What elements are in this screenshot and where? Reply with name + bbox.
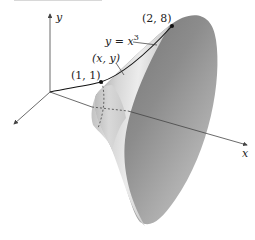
point-label-1-1: (1, 1) — [71, 70, 101, 81]
surface-of-revolution-figure: y x (2, 8) (1, 1) (x, y) y = x3 — [0, 0, 255, 240]
x-axis-label: x — [242, 148, 248, 159]
z-axis — [14, 92, 50, 124]
equation-exponent: 3 — [134, 33, 139, 42]
x-axis-back — [50, 92, 92, 107]
point-label-x-y: (x, y) — [92, 53, 120, 64]
y-axis-label: y — [56, 12, 62, 23]
equation-base: y = x — [105, 35, 134, 48]
curve-equation: y = x3 — [105, 34, 139, 47]
point-label-2-8: (2, 8) — [142, 13, 172, 24]
